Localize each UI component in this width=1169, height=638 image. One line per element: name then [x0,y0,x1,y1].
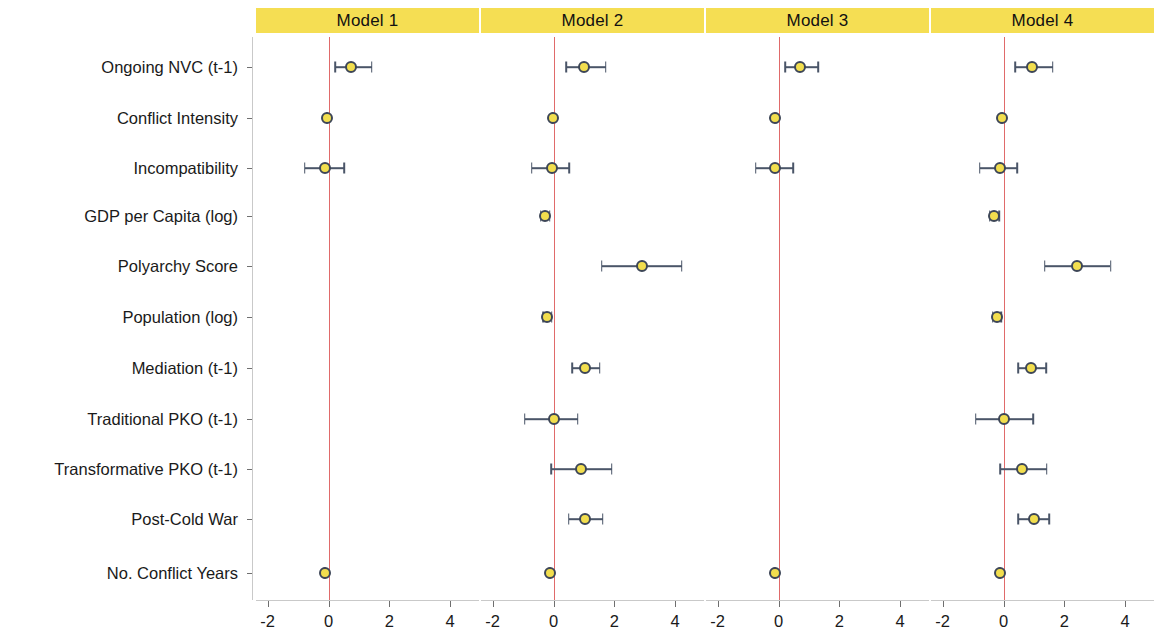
error-bar-cap [601,261,603,272]
error-bar-cap [531,163,533,174]
x-axis-tick [718,601,719,607]
estimate-point [548,413,560,425]
x-axis-tick-label: 0 [324,612,333,631]
x-axis-tick [779,601,780,607]
estimate-point [998,413,1010,425]
estimate-point [1026,61,1038,73]
y-axis-label: Conflict Intensity [0,109,238,128]
error-bar-cap [602,514,604,525]
estimate-point [539,210,551,222]
x-axis-tick-label: 4 [896,612,905,631]
estimate-point [988,210,1000,222]
panel-header-3: Model 3 [706,8,929,33]
error-bar-cap [792,163,794,174]
x-axis-tick [1004,601,1005,607]
error-bar-cap [1052,62,1054,73]
estimate-point [996,112,1008,124]
error-bar-cap [572,363,574,374]
estimate-point [1028,513,1040,525]
estimate-point [319,567,331,579]
estimate-point [546,162,558,174]
error-bar-cap [1016,163,1018,174]
x-axis-tick-label: 4 [671,612,680,631]
estimate-point [769,162,781,174]
error-bar-cap [975,414,977,425]
panel-title: Model 2 [562,11,624,31]
x-axis-tick-label: 0 [549,612,558,631]
x-axis-tick-label: -2 [710,612,725,631]
x-axis-tick [493,601,494,607]
x-axis-tick-label: 2 [385,612,394,631]
error-bar-cap [1046,464,1048,475]
error-bar-cap [371,62,373,73]
estimate-point [1071,260,1083,272]
x-axis-tick [329,601,330,607]
x-axis-tick [900,601,901,607]
error-bar-cap [344,163,346,174]
estimate-point [319,162,331,174]
coefficient-plot: Ongoing NVC (t-1)Conflict IntensityIncom… [0,0,1169,638]
estimate-point [994,567,1006,579]
error-bar-cap [1017,363,1019,374]
x-axis-tick [839,601,840,607]
panel-title: Model 3 [787,11,849,31]
panel-header-2: Model 2 [481,8,704,33]
error-bar-cap [755,163,757,174]
y-axis-label: No. Conflict Years [0,564,238,583]
error-bar-cap [569,163,571,174]
y-axis-label: Population (log) [0,308,238,327]
estimate-point [575,463,587,475]
error-bar-cap [577,414,579,425]
estimate-point [547,112,559,124]
estimate-point [1025,362,1037,374]
x-axis-tick-label: 2 [835,612,844,631]
panel-title: Model 4 [1012,11,1074,31]
error-bar-cap [605,62,607,73]
error-bar-cap [1017,514,1019,525]
error-bar-cap [550,464,552,475]
panel-title: Model 1 [337,11,399,31]
estimate-point [636,260,648,272]
error-bar-cap [1044,261,1046,272]
error-bar-cap [1048,514,1050,525]
error-bar-cap [1110,261,1112,272]
error-bar-cap [784,62,786,73]
x-axis-tick [1125,601,1126,607]
error-bar-cap [524,414,526,425]
error-bar-cap [565,62,567,73]
error-bar-cap [979,163,981,174]
x-axis-tick-label: 2 [610,612,619,631]
error-bar-cap [817,62,819,73]
x-axis-tick [1064,601,1065,607]
estimate-point [769,567,781,579]
y-axis-label: Transformative PKO (t-1) [0,460,238,479]
y-axis-label: Mediation (t-1) [0,359,238,378]
x-axis-tick-label: 0 [999,612,1008,631]
estimate-point [794,61,806,73]
y-axis-label: GDP per Capita (log) [0,207,238,226]
x-axis-tick-label: -2 [935,612,950,631]
x-axis-line [706,600,929,601]
y-axis-label: Ongoing NVC (t-1) [0,58,238,77]
x-axis-tick-label: 4 [446,612,455,631]
x-axis-tick [943,601,944,607]
x-axis-line [256,600,479,601]
x-axis-tick-label: 2 [1060,612,1069,631]
estimate-point [541,311,553,323]
error-bar-cap [1014,62,1016,73]
estimate-point [1016,463,1028,475]
estimate-point [321,112,333,124]
panel-header-1: Model 1 [256,8,479,33]
error-bar-cap [599,363,601,374]
error-bar-cap [1045,363,1047,374]
x-axis-tick [450,601,451,607]
estimate-point [769,112,781,124]
x-axis-tick [554,601,555,607]
x-axis-tick [614,601,615,607]
x-axis-tick [389,601,390,607]
estimate-point [991,311,1003,323]
y-axis-label: Polyarchy Score [0,257,238,276]
estimate-point [579,362,591,374]
estimate-point [345,61,357,73]
x-axis-tick-label: 0 [774,612,783,631]
